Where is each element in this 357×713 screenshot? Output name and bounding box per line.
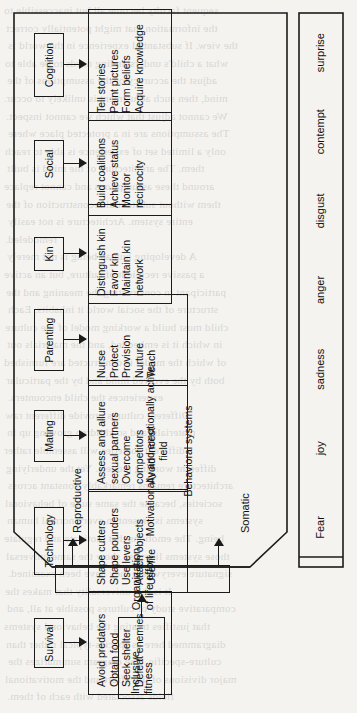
list-item: Achieve status — [108, 120, 121, 208]
list-item: Provision — [120, 302, 133, 378]
node-cognition-label: Cognition — [43, 43, 55, 87]
list-item: Nurture — [133, 302, 146, 378]
list-item: competitors — [133, 388, 146, 484]
list-item: Protect — [108, 302, 121, 378]
list-item: Monitor — [120, 120, 133, 208]
emotion-label-anger: anger — [314, 250, 326, 329]
node-social-label: Social — [43, 150, 55, 179]
diagram-stage: Inclusive fitness Organization of life e… — [0, 0, 357, 713]
rotated-figure-canvas: Inclusive fitness Organization of life e… — [0, 0, 357, 713]
list-item: sexual partners — [108, 388, 121, 484]
list-item: Use fire — [145, 497, 158, 585]
list-kin-items: Distinguish kinFavor kinMaintain kinnetw… — [88, 204, 172, 304]
node-parenting: Parenting — [34, 309, 64, 371]
node-mating-label: Mating — [43, 420, 55, 452]
node-technology: Technology — [34, 507, 64, 575]
label-reproductive-text: Reproductive — [71, 468, 83, 533]
emotion-label-contempt: contempt — [314, 92, 326, 171]
list-item: Shape cutters — [95, 497, 108, 585]
arrow-cognition-to-items — [64, 64, 86, 65]
list-social-items: Build coalitionsAchieve statusMonitorrec… — [88, 112, 172, 216]
arrow-technology-to-items — [64, 540, 86, 541]
list-item: Acquire knowledge — [133, 17, 146, 113]
arrow-organization-to-somatic — [218, 539, 219, 565]
list-item: Assess and allure — [95, 388, 108, 484]
list-item: Defeat enemies — [133, 599, 146, 687]
list-technology-items: Shape cuttersShape poundersUse leversAtt… — [88, 489, 188, 593]
list-item: Favor kin — [108, 212, 121, 296]
emotion-label-disgust: disgust — [314, 171, 326, 250]
list-mating-items: Assess and alluresexual partnersOvercome… — [88, 380, 188, 492]
list-item: Use levers — [120, 497, 133, 585]
list-item: Nurse — [95, 302, 108, 378]
emotion-label-sadness: sadness — [314, 330, 326, 409]
arrow-parenting-to-items — [64, 339, 86, 340]
list-item: Distinguish kin — [95, 212, 108, 296]
list-item: Shape pounders — [108, 497, 121, 585]
list-item: Maintain kin — [120, 212, 133, 296]
arrow-mating-to-items — [64, 435, 86, 436]
arrow-organization-to-reproductive — [72, 539, 73, 565]
emotion-label-surprise: surprise — [314, 13, 326, 92]
emotion-label-fear: Fear — [314, 488, 326, 567]
list-item: Form beliefs — [120, 17, 133, 113]
node-technology-label: Technology — [43, 514, 55, 567]
label-somatic: Somatic — [226, 493, 252, 533]
arrow-survival-to-items — [64, 642, 86, 643]
list-item: Seek shelter — [120, 599, 133, 687]
list-cognition-items: Tell storiesPaint picturesForm beliefsAc… — [88, 9, 172, 121]
list-item: Teach — [145, 302, 158, 378]
node-cognition: Cognition — [34, 33, 64, 97]
list-item: reciprocity — [133, 120, 146, 208]
list-item: Obtain food — [108, 599, 121, 687]
list-item: Tell stories — [95, 17, 108, 113]
list-item: Build coalitions — [95, 120, 108, 208]
list-item: Paint pictures — [108, 17, 121, 113]
emotion-label-joy: joy — [314, 409, 326, 488]
list-item: Avoid incest — [145, 388, 158, 484]
arrow-kin-to-items — [64, 253, 86, 254]
arrow-social-to-items — [64, 163, 86, 164]
list-item: Overcome — [120, 388, 133, 484]
node-kin-label: Kin — [43, 246, 55, 261]
list-item: Avoid predators — [95, 599, 108, 687]
list-survival-items: Avoid predatorsObtain foodSeek shelterDe… — [88, 591, 172, 695]
label-somatic-text: Somatic — [239, 493, 251, 533]
node-survival: Survival — [34, 618, 64, 668]
node-social: Social — [34, 140, 64, 188]
node-mating: Mating — [34, 410, 64, 462]
list-parenting-items: NurseProtectProvisionNurtureTeach — [88, 294, 188, 386]
node-parenting-label: Parenting — [43, 318, 55, 363]
node-survival-label: Survival — [43, 624, 55, 661]
list-item: network — [133, 212, 146, 296]
list-item: Attach objects — [133, 497, 146, 585]
node-kin: Kin — [34, 237, 64, 271]
